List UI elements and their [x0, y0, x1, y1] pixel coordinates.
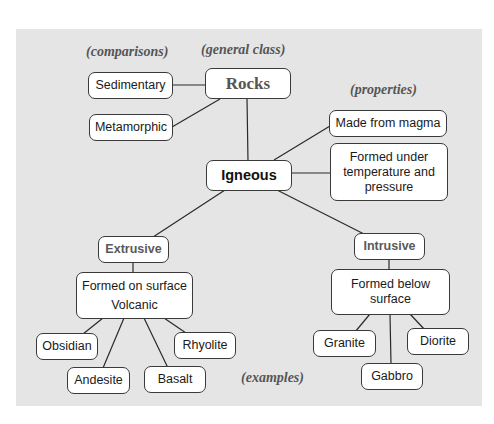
formed-below-line-1: Formed below — [351, 277, 430, 292]
formed-on-surface-line: Formed on surface — [82, 279, 187, 294]
node-sedimentary: Sedimentary — [88, 72, 173, 99]
label-examples: (examples) — [241, 370, 304, 386]
node-formed-under-temperature-pressure: Formed under temperature and pressure — [330, 143, 448, 201]
connector-lines — [0, 0, 494, 424]
node-obsidian: Obsidian — [36, 333, 98, 360]
node-intrusive: Intrusive — [354, 233, 425, 260]
formed-below-line-2: surface — [370, 292, 411, 307]
node-basalt: Basalt — [144, 366, 206, 393]
node-andesite: Andesite — [67, 367, 130, 394]
volcanic-line: Volcanic — [111, 298, 158, 313]
node-formed-on-surface-volcanic: Formed on surface Volcanic — [76, 272, 193, 319]
node-gabbro: Gabbro — [361, 363, 423, 390]
formed-under-line-3: pressure — [365, 180, 414, 195]
formed-under-line-2: temperature and — [343, 165, 435, 180]
node-granite: Granite — [313, 330, 376, 357]
node-rocks: Rocks — [205, 68, 291, 99]
node-metamorphic: Metamorphic — [89, 114, 173, 141]
label-general-class: (general class) — [201, 42, 285, 58]
node-igneous: Igneous — [206, 160, 292, 191]
label-comparisons: (comparisons) — [86, 44, 168, 60]
node-rhyolite: Rhyolite — [174, 332, 236, 359]
formed-under-line-1: Formed under — [350, 150, 429, 165]
node-extrusive: Extrusive — [98, 236, 169, 263]
node-made-from-magma: Made from magma — [329, 110, 447, 137]
label-properties: (properties) — [350, 82, 417, 98]
node-formed-below-surface: Formed below surface — [331, 269, 450, 315]
node-diorite: Diorite — [407, 328, 469, 355]
